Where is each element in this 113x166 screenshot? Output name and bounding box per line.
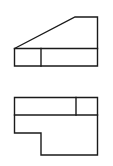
- lower-view: [15, 98, 98, 156]
- lower-view-outline: [15, 98, 98, 156]
- upper-view-outline: [15, 17, 98, 66]
- drawing-canvas: [0, 0, 113, 166]
- upper-view: [15, 17, 98, 66]
